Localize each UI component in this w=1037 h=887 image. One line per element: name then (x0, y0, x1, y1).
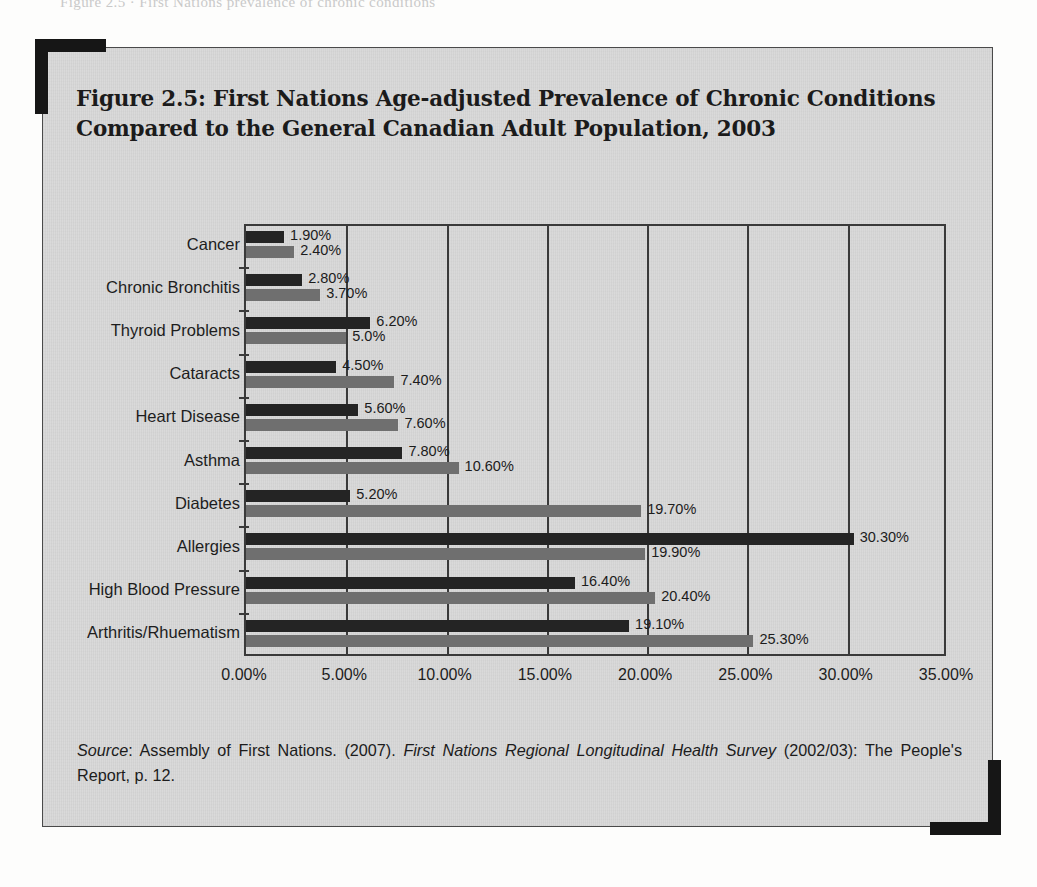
x-tick-label: 0.00% (221, 666, 266, 684)
bar-value-label: 7.80% (408, 443, 449, 459)
bar-group: 30.30%19.90% (246, 528, 944, 571)
bar-value-label: 25.30% (759, 631, 808, 647)
x-tick-label: 25.00% (718, 666, 772, 684)
x-tick-label: 35.00% (919, 666, 973, 684)
category-label: High Blood Pressure (50, 580, 240, 599)
bar-value-label: 20.40% (661, 588, 710, 604)
category-label: Diabetes (50, 494, 240, 513)
bar-gen (246, 462, 459, 474)
bar-value-label: 7.60% (404, 415, 445, 431)
bar-fn (246, 361, 336, 373)
x-tick-label: 10.00% (417, 666, 471, 684)
bar-gen (246, 289, 320, 301)
category-label: Heart Disease (50, 407, 240, 426)
category-label: Asthma (50, 451, 240, 470)
bar-group: 19.10%25.30% (246, 615, 944, 658)
bar-fn (246, 533, 854, 545)
bar-chart: CancerChronic BronchitisThyroid Problems… (43, 216, 994, 716)
page-bleed-text: Figure 2.5 · First Nations prevalence of… (60, 0, 980, 10)
bar-gen (246, 419, 398, 431)
bar-group: 5.20%19.70% (246, 485, 944, 528)
bar-value-label: 10.60% (465, 458, 514, 474)
category-label: Arthritis/Rhuematism (50, 623, 240, 642)
bar-group: 16.40%20.40% (246, 572, 944, 615)
bar-gen (246, 505, 641, 517)
bar-group: 5.60%7.60% (246, 399, 944, 442)
bar-value-label: 5.20% (356, 486, 397, 502)
bar-value-label: 19.90% (651, 544, 700, 560)
bar-value-label: 2.40% (300, 242, 341, 258)
x-tick-label: 20.00% (618, 666, 672, 684)
figure-container: Figure 2.5: First Nations Age-adjusted P… (42, 47, 993, 827)
bar-value-label: 6.20% (376, 313, 417, 329)
bar-fn (246, 404, 358, 416)
bar-group: 7.80%10.60% (246, 442, 944, 485)
bar-group: 2.80%3.70% (246, 269, 944, 312)
bar-value-label: 19.10% (635, 616, 684, 632)
source-title-italic: First Nations Regional Longitudinal Heal… (403, 741, 776, 759)
bar-fn (246, 577, 575, 589)
category-label: Cataracts (50, 364, 240, 383)
source-text-part1: : Assembly of First Nations. (2007). (128, 741, 403, 759)
plot-area: 1.90%2.40%2.80%3.70%6.20%5.0%4.50%7.40%5… (244, 224, 946, 656)
category-label: Chronic Bronchitis (50, 278, 240, 297)
bar-value-label: 16.40% (581, 573, 630, 589)
bar-gen (246, 635, 753, 647)
x-tick-label: 5.00% (322, 666, 367, 684)
x-tick-label: 15.00% (518, 666, 572, 684)
bar-fn (246, 231, 284, 243)
bar-gen (246, 246, 294, 258)
category-label: Thyroid Problems (50, 321, 240, 340)
bar-group: 1.90%2.40% (246, 226, 944, 269)
category-label: Allergies (50, 537, 240, 556)
category-axis: CancerChronic BronchitisThyroid Problems… (48, 224, 240, 656)
bar-value-label: 5.60% (364, 400, 405, 416)
bar-gen (246, 592, 655, 604)
bar-value-label: 5.0% (352, 328, 385, 344)
bar-gen (246, 376, 394, 388)
category-label: Cancer (50, 235, 240, 254)
source-label: Source (77, 741, 128, 759)
bar-value-label: 3.70% (326, 285, 367, 301)
bar-gen (246, 548, 645, 560)
bar-value-label: 19.70% (647, 501, 696, 517)
figure-title: Figure 2.5: First Nations Age-adjusted P… (76, 84, 956, 144)
bar-group: 6.20%5.0% (246, 312, 944, 355)
bar-value-label: 4.50% (342, 357, 383, 373)
bar-fn (246, 274, 302, 286)
source-note: Source: Assembly of First Nations. (2007… (77, 738, 962, 788)
bar-fn (246, 490, 350, 502)
bar-fn (246, 447, 402, 459)
value-axis: 0.00%5.00%10.00%15.00%20.00%25.00%30.00%… (244, 662, 946, 692)
x-tick-label: 30.00% (819, 666, 873, 684)
bar-value-label: 1.90% (290, 227, 331, 243)
bar-group: 4.50%7.40% (246, 356, 944, 399)
bar-value-label: 30.30% (860, 529, 909, 545)
bar-gen (246, 332, 346, 344)
bar-value-label: 7.40% (400, 372, 441, 388)
bar-value-label: 2.80% (308, 270, 349, 286)
bar-fn (246, 620, 629, 632)
